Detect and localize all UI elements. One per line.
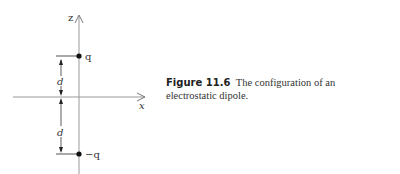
figure-number: Figure 11.6 [166,77,230,88]
z-axis-label: z [68,12,73,23]
figure-caption: Figure 11.6 The configuration of an elec… [166,76,386,102]
dimension-arrow-up-icon [59,98,63,104]
dimension-arrow-down-icon [59,147,63,153]
dimension-arrow-down-icon [59,90,63,96]
negative-charge-label: −q [85,149,100,160]
positive-charge-label: q [85,51,92,62]
dimension-label-upper: d [57,76,63,87]
dipole-svg: z x q −q d d [0,0,160,174]
dipole-diagram: z x q −q d d [0,0,160,174]
negative-charge-dot [76,151,81,156]
x-axis-label: x [139,100,145,111]
positive-charge-dot [76,53,81,58]
dimension-arrow-up-icon [59,59,63,65]
dimension-label-lower: d [57,127,63,138]
